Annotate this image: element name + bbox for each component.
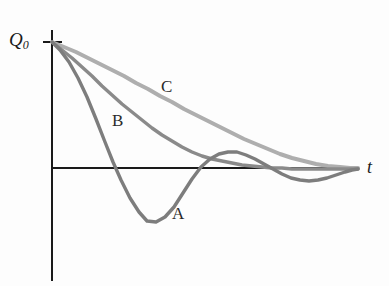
curve-a-underdamped bbox=[52, 42, 358, 222]
x-axis-label: t bbox=[367, 158, 372, 176]
curve-label-b: B bbox=[112, 112, 123, 129]
y-axis-label: Q0 bbox=[9, 30, 29, 51]
damped-oscillation-figure: Q0 t A B C bbox=[0, 0, 389, 286]
curve-label-a: A bbox=[172, 205, 184, 222]
curve-label-c: C bbox=[161, 78, 172, 95]
curves-group bbox=[52, 42, 358, 222]
y-axis-label-symbol: Q bbox=[9, 29, 23, 50]
curve-c-overdamped bbox=[52, 42, 358, 168]
plot-canvas bbox=[0, 0, 389, 286]
y-axis-label-subscript: 0 bbox=[23, 38, 29, 52]
